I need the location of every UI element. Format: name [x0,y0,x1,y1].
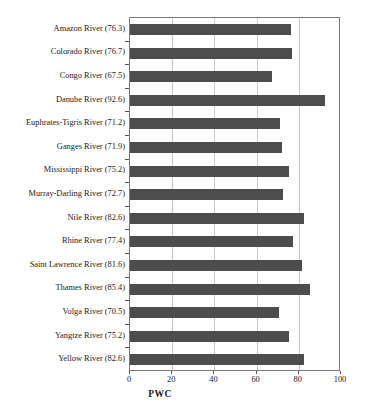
x-axis-tick [298,371,299,374]
y-axis-tick [125,253,129,254]
x-axis-tick [256,371,257,374]
bar [130,189,283,200]
x-axis: 020406080100 [129,371,340,391]
category-axis-labels: Amazon River (76.3)Colorado River (76.7)… [0,17,125,371]
bar [130,331,289,342]
y-axis-tick [125,347,129,348]
bar [130,48,292,59]
x-axis-tick-label: 0 [127,375,131,384]
bar [130,95,325,106]
bar [130,260,302,271]
bar [130,24,291,35]
bar-chart: Amazon River (76.3)Colorado River (76.7)… [0,0,367,413]
bar [130,213,304,224]
category-label: Colorado River (76.7) [1,47,125,57]
category-label: Euphrates-Tigris River (71.2) [1,118,125,128]
x-axis-tick [129,371,130,374]
bar [130,284,310,295]
y-axis-tick [125,324,129,325]
x-axis-tick-label: 40 [209,375,217,384]
x-axis-tick-label: 60 [251,375,259,384]
category-label: Danube River (92.6) [1,95,125,105]
gridline [299,18,300,370]
x-axis-tick-label: 100 [334,375,347,384]
y-axis-tick [125,300,129,301]
x-axis-title: PWC [0,389,367,399]
y-axis-tick [125,229,129,230]
category-label: Saint Lawrence River (81.6) [1,260,125,270]
category-label: Congo River (67.5) [1,71,125,81]
category-label: Volga River (70.5) [1,307,125,317]
category-label: Rhine River (77.4) [1,236,125,246]
y-axis-tick [125,159,129,160]
y-axis-tick [125,88,129,89]
y-axis-tick [125,41,129,42]
bar [130,307,279,318]
bar [130,354,304,365]
x-axis-tick [340,371,341,374]
y-axis-tick [125,277,129,278]
y-axis-tick [125,182,129,183]
category-label: Yangtze River (75.2) [1,331,125,341]
category-label: Mississippi River (75.2) [1,165,125,175]
x-axis-tick [213,371,214,374]
x-axis-tick-label: 80 [294,375,302,384]
category-label: Amazon River (76.3) [1,24,125,34]
y-axis-tick [125,135,129,136]
category-label: Yellow River (82.6) [1,354,125,364]
category-label: Nile River (82.6) [1,213,125,223]
bar [130,166,289,177]
bar [130,118,280,129]
y-axis-tick [125,64,129,65]
plot-area [129,17,340,371]
x-axis-tick [171,371,172,374]
bar [130,142,282,153]
category-label: Ganges River (71.9) [1,142,125,152]
bar [130,71,272,82]
y-axis-tick [125,206,129,207]
category-label: Thames River (85.4) [1,283,125,293]
bar [130,236,293,247]
category-label: Murray-Darling River (72.7) [1,189,125,199]
y-axis-tick [125,111,129,112]
x-axis-tick-label: 20 [167,375,175,384]
